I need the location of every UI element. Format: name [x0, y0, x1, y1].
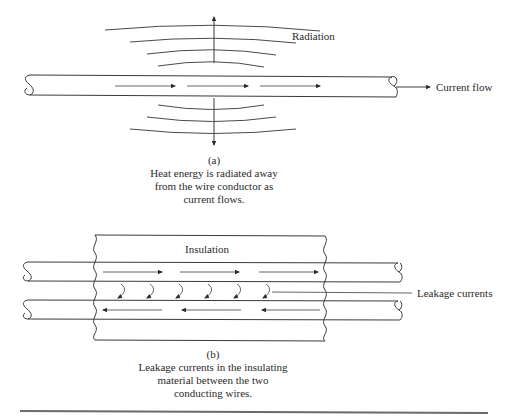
- wire-b-bottom: [23, 300, 402, 320]
- figure-canvas: Radiation Current flow (a) H: [0, 0, 508, 419]
- current-flow-label: Current flow: [436, 81, 493, 93]
- leakage-current-arrows: [118, 284, 270, 298]
- caption-b: (b) Leakage currents in the insulating m…: [138, 348, 288, 399]
- leakage-callout-line: [272, 292, 412, 293]
- radiation-label: Radiation: [292, 30, 335, 42]
- wire-break-right-icon: [395, 263, 402, 282]
- caption-b-line-2: material between the two: [158, 374, 269, 386]
- wire-break-left-icon: [23, 262, 31, 281]
- caption-b-line-1: Leakage currents in the insulating: [138, 361, 288, 373]
- figure-a: Radiation Current flow (a) H: [25, 17, 493, 205]
- radiation-arcs-top: [105, 25, 320, 67]
- caption-a-line-1: Heat energy is radiated away: [150, 167, 278, 179]
- caption-b-tag: (b): [207, 348, 220, 361]
- insulation-label: Insulation: [185, 243, 229, 255]
- figure-b: Insulation: [23, 235, 492, 399]
- leakage-currents-label: Leakage currents: [417, 287, 492, 299]
- caption-a-line-2: from the wire conductor as: [155, 180, 274, 192]
- bottom-rule: [20, 411, 488, 413]
- caption-a: (a) Heat energy is radiated away from th…: [150, 154, 278, 205]
- wire-break-left-icon: [23, 300, 31, 319]
- wire-break-right-icon: [395, 301, 402, 320]
- insulation-wavy-edge-left: [94, 235, 97, 340]
- caption-b-line-3: conducting wires.: [174, 387, 252, 399]
- caption-a-line-3: current flows.: [183, 193, 244, 205]
- insulation-wavy-edge-right: [324, 236, 327, 341]
- radiation-arcs-bottom: [130, 105, 296, 134]
- wire-a: [25, 75, 397, 97]
- wire-b-top: [23, 262, 402, 282]
- wire-break-left-icon: [25, 75, 33, 95]
- caption-a-tag: (a): [208, 154, 221, 167]
